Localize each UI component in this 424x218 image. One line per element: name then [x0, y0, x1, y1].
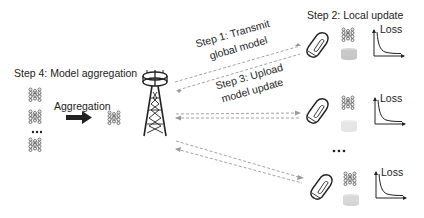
phone-icon — [307, 99, 328, 124]
global-model-icon — [108, 111, 120, 125]
dataset-icon — [343, 194, 359, 206]
ellipsis-icon — [32, 131, 42, 133]
step2-label: Step 2: Local update — [307, 9, 403, 21]
loss-label-2: Loss — [380, 92, 402, 104]
loss-label-1: Loss — [380, 23, 402, 35]
phone-icon — [307, 33, 328, 58]
neural-network-icon — [342, 96, 354, 110]
neural-network-icon — [344, 172, 356, 186]
aggregation-arrow-icon — [66, 111, 92, 124]
loss-label-3: Loss — [381, 166, 403, 178]
transmission-arrows — [175, 43, 304, 183]
dataset-icon — [341, 120, 357, 132]
cell-tower-icon — [143, 70, 167, 136]
ellipsis-icon — [333, 150, 346, 153]
neural-network-icon — [29, 110, 41, 124]
local-models-stack — [29, 88, 42, 152]
neural-network-icon — [29, 138, 41, 152]
neural-network-icon — [29, 88, 41, 102]
aggregation-label: Aggregation — [54, 100, 111, 112]
neural-network-icon — [342, 28, 354, 42]
dataset-icon — [341, 48, 357, 60]
phone-icon — [311, 175, 332, 200]
step4-label: Step 4: Model aggregation — [14, 67, 137, 79]
